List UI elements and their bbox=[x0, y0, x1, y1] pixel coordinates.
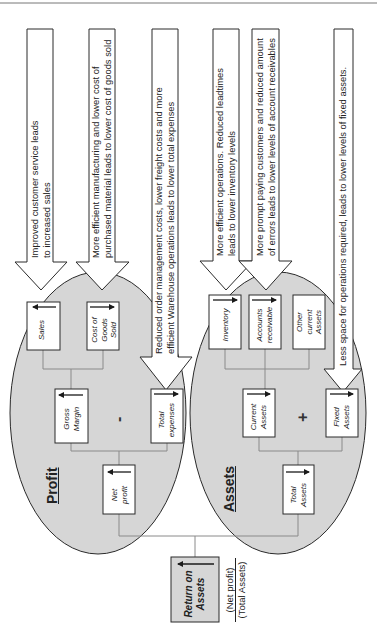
callout-text-accounts-receivable: More prompt paying customers and reduced… bbox=[254, 38, 277, 256]
node-label-total-expenses: Totalexpenses bbox=[157, 402, 176, 438]
node-label-sales: Sales bbox=[37, 314, 47, 346]
node-label-other-current-assets: OthercurrentAssets bbox=[295, 302, 324, 342]
node-label-accounts-receivable: Accountsreceivable bbox=[255, 304, 274, 346]
node-label-roa: Return onAssets bbox=[183, 570, 207, 618]
node-label-cogs: Cost ofGoodsSold bbox=[90, 314, 119, 346]
node-label-net-profit: Netprofit bbox=[110, 480, 129, 510]
callout-text-total-expenses: Reduced order management costs, lower fr… bbox=[153, 87, 176, 354]
node-label-total-assets: TotalAssets bbox=[289, 480, 308, 510]
callout-text-sales: Improved customer service leadsto increa… bbox=[29, 120, 52, 258]
callout-text-inventory: More efficient operations. Reduced leadt… bbox=[214, 68, 237, 256]
node-label-gross-margin: GrossMargin bbox=[62, 401, 81, 437]
assets-title: Assets bbox=[221, 466, 237, 512]
roa-formula: (Net profit) (Total Assets) bbox=[224, 558, 247, 622]
callout-text-fixed-assets: Less space for operations required, lead… bbox=[337, 67, 349, 366]
assets-operator: + bbox=[294, 413, 312, 422]
profit-operator: - bbox=[110, 417, 128, 422]
profit-title: Profit bbox=[44, 467, 60, 504]
callout-text-cogs: More efficient manufacturing and lower c… bbox=[90, 40, 113, 258]
formula-numerator: (Net profit) bbox=[224, 558, 236, 622]
formula-denominator: (Total Assets) bbox=[236, 558, 247, 622]
node-label-current-assets: CurrentAssets bbox=[249, 401, 268, 433]
node-label-inventory: Inventory bbox=[221, 305, 231, 345]
node-label-fixed-assets: FixedAssets bbox=[332, 401, 351, 433]
